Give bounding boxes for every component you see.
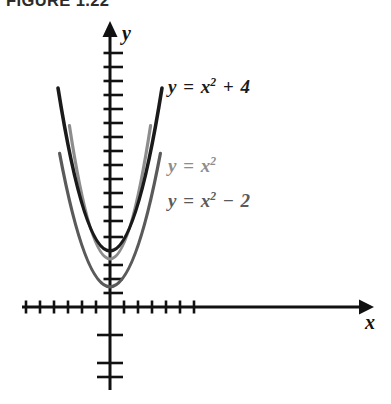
curve-label-exponent: 2 [210, 155, 216, 168]
curve-label-constant: 2 [240, 190, 250, 211]
curve-label-lhs: y [168, 155, 176, 176]
curve-label-y-equals-x-squared-minus-2: y = x2 − 2 [168, 190, 250, 212]
curve-label-operator: + [221, 76, 236, 97]
curve-label-base: x [201, 155, 211, 176]
curve-label-equals: = [181, 76, 196, 97]
curve-label-y-equals-x-squared-plus-4: y = x2 + 4 [168, 76, 250, 98]
curve-label-exponent: 2 [210, 76, 216, 89]
curve-label-lhs: y [168, 76, 176, 97]
curve-label-exponent: 2 [210, 190, 216, 203]
curve-label-equals: = [181, 155, 196, 176]
curve-label-base: x [201, 190, 211, 211]
x-axis-label: x [365, 311, 375, 334]
curve-label-operator: − [221, 190, 236, 211]
curve-label-base: x [201, 76, 211, 97]
curve-label-equals: = [181, 190, 196, 211]
figure-container: FIGURE 1.22 [0, 0, 391, 404]
y-axis-label: y [122, 22, 131, 45]
y-axis-arrowhead [103, 21, 118, 37]
curve-label-lhs: y [168, 190, 176, 211]
curve-label-y-equals-x-squared: y = x2 [168, 155, 216, 177]
curve-label-constant: 4 [240, 76, 250, 97]
